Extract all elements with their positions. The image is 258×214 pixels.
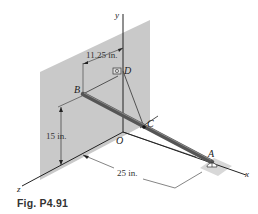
support-d-icon	[113, 68, 121, 74]
point-label-a: A	[207, 148, 215, 159]
point-label-o: O	[116, 135, 123, 146]
figure-caption: Fig. P4.91	[17, 197, 68, 209]
dimension-label-15: 15 in.	[46, 131, 67, 141]
dimension-label-25: 25 in.	[117, 168, 138, 178]
point-label-c: C	[147, 118, 154, 129]
point-c-dot	[142, 125, 146, 129]
dimension-label-11-25: 11.25 in.	[86, 50, 117, 60]
dimension-25	[83, 155, 202, 188]
point-label-b: B	[74, 84, 80, 95]
point-label-d: D	[123, 65, 132, 76]
axis-label-y: y	[114, 10, 119, 20]
axis-label-z: z	[16, 184, 21, 194]
axis-label-x: x	[244, 169, 249, 179]
figure-canvas: 11.25 in. 15 in. 25 in. y x z O A B C D	[0, 0, 258, 214]
